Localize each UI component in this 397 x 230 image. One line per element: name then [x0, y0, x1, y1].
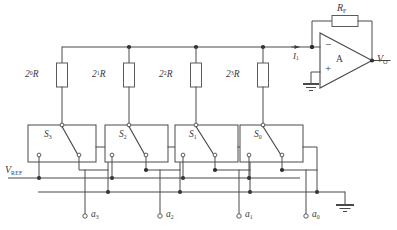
- resistor-body: [57, 63, 68, 87]
- switch-label-s3: S3: [44, 130, 52, 140]
- bit-label-a0: a0: [312, 210, 320, 220]
- resistor-body: [332, 16, 358, 27]
- switch-throw-terminal-gnd: [144, 153, 148, 157]
- resistor-r0: [57, 47, 68, 125]
- summing-node-rail: [62, 45, 314, 49]
- vref-label: VREF: [5, 165, 22, 175]
- opamp-designator-label: A: [336, 55, 343, 65]
- circuit-diagram-canvas: 20R 21R 22R 23R S3 S2 S1 S0 a3 a2 a1 a0 …: [0, 0, 397, 230]
- current-arrow-head: [295, 45, 300, 49]
- resistor-label-r1: 21R: [92, 70, 106, 80]
- resistor-label-r3: 23R: [226, 70, 240, 80]
- switch-s2[interactable]: [105, 123, 182, 215]
- ground-symbol: [336, 205, 354, 212]
- switch-s3[interactable]: [28, 123, 110, 215]
- junction-dot: [144, 168, 148, 172]
- switch-throw-terminal-vref: [181, 153, 185, 157]
- switch-label-s0: S0: [254, 130, 262, 140]
- junction-dot: [310, 45, 314, 49]
- switch-label-s1: S1: [189, 130, 197, 140]
- resistor-r1: [124, 47, 135, 125]
- circuit-schematic-svg: [0, 0, 397, 230]
- bit-label-a3: a3: [91, 210, 99, 220]
- switch-throw-terminal-vref: [37, 153, 41, 157]
- feedback-resistor-label: RF: [337, 3, 347, 13]
- resistor-label-r2: 22R: [159, 70, 173, 80]
- bit-terminal-a3[interactable]: [83, 214, 87, 218]
- switch-label-s2: S2: [119, 130, 127, 140]
- bit-terminal-a2[interactable]: [158, 214, 162, 218]
- resistor-r2: [191, 47, 202, 125]
- inverting-input-sign: −: [325, 39, 331, 50]
- switch-s0[interactable]: [240, 123, 319, 215]
- resistor-body: [191, 63, 202, 87]
- bit-terminal-a1[interactable]: [237, 214, 241, 218]
- junction-dot: [280, 168, 284, 172]
- noninverting-input-sign: +: [325, 63, 331, 74]
- resistor-body: [124, 63, 135, 87]
- switch-throw-terminal-gnd: [280, 153, 284, 157]
- resistor-label-r0: 20R: [25, 70, 39, 80]
- switch-throw-terminal-vref: [110, 153, 114, 157]
- output-voltage-label: VO: [377, 54, 388, 64]
- resistor-r3: [258, 47, 269, 125]
- switch-throw-terminal-gnd: [213, 153, 217, 157]
- bit-terminal-a0[interactable]: [304, 214, 308, 218]
- switch-throw-terminal-vref: [247, 153, 251, 157]
- resistor-body: [258, 63, 269, 87]
- bit-input-terminals: [83, 214, 308, 218]
- switch-throw-terminal-gnd: [77, 153, 81, 157]
- bit-label-a2: a2: [166, 210, 174, 220]
- bit-label-a1: a1: [245, 210, 253, 220]
- junction-dot: [213, 168, 217, 172]
- ground-symbol-opamp: [303, 84, 319, 91]
- switch-enclosure[interactable]: [105, 125, 168, 162]
- input-current-label: I1: [293, 52, 299, 61]
